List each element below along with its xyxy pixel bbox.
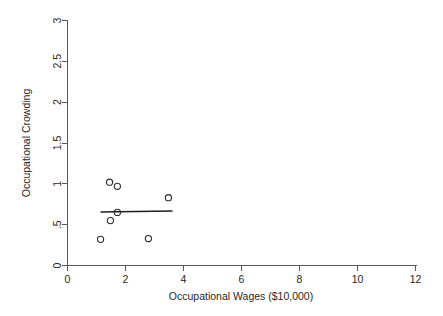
scatter-plot-figure: 0 .5 1 1.5 2 2.5 3 0 2 4 6 8 10 12 (0, 0, 443, 316)
x-tick-label-1: 2 (123, 273, 129, 285)
data-point-marker (165, 195, 171, 201)
x-axis-tick-labels: 0 2 4 6 8 10 12 (65, 273, 422, 285)
x-tick-label-5: 10 (352, 273, 364, 285)
y-axis-tick-labels: 0 .5 1 1.5 2 2.5 3 (51, 17, 63, 268)
y-tick-label-1: .5 (51, 220, 63, 229)
x-axis-title: Occupational Wages ($10,000) (169, 290, 313, 302)
x-tick-label-4: 8 (297, 273, 303, 285)
y-tick-label-5: 2.5 (51, 54, 63, 69)
regression-fit-line (101, 211, 173, 212)
x-tick-label-2: 4 (181, 273, 187, 285)
y-tick-label-4: 2 (51, 99, 63, 105)
y-axis-title: Occupational Crowding (20, 89, 32, 198)
x-axis-ticks (68, 266, 416, 272)
x-tick-label-6: 12 (410, 273, 422, 285)
y-tick-label-0: 0 (51, 262, 63, 268)
y-tick-label-6: 3 (51, 17, 63, 23)
x-tick-label-3: 6 (239, 273, 245, 285)
y-tick-label-3: 1.5 (51, 136, 63, 151)
data-point-marker (145, 235, 151, 241)
data-point-marker (97, 236, 103, 242)
data-point-marker (114, 183, 120, 189)
data-point-marker (107, 217, 113, 223)
x-tick-label-0: 0 (65, 273, 71, 285)
y-tick-label-2: 1 (51, 181, 63, 187)
data-point-marker (106, 179, 112, 185)
fit-line-group (101, 211, 173, 212)
plot-canvas: 0 .5 1 1.5 2 2.5 3 0 2 4 6 8 10 12 (0, 0, 443, 316)
